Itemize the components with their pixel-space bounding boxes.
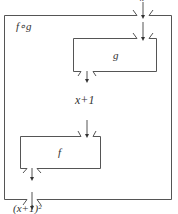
arrowhead-out-g xyxy=(85,79,89,83)
composition-diagram xyxy=(0,0,178,214)
arrowhead-into-f xyxy=(85,134,89,138)
arrowhead-into-g xyxy=(141,37,145,41)
arrowhead-input xyxy=(141,15,145,19)
box-g-label: g xyxy=(113,50,119,61)
output-label: (x+1)² xyxy=(13,203,41,214)
input-label: x xyxy=(140,0,144,3)
outer-box xyxy=(5,16,172,200)
arrowhead-out-f xyxy=(30,177,34,181)
intermediate-label: x+1 xyxy=(75,94,94,106)
outer-box-label: f∘g xyxy=(16,21,32,32)
box-f-label: f xyxy=(58,147,61,158)
